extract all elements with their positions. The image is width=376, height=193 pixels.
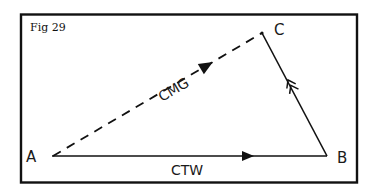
cmg-label: CMG [155, 74, 191, 104]
point-b-label: B [337, 149, 347, 167]
figure-frame [21, 15, 357, 183]
point-c-marker [260, 31, 263, 34]
cb-line [262, 33, 327, 156]
point-c-label: C [274, 21, 284, 39]
point-a-label: A [26, 148, 37, 166]
ctw-label: CTW [171, 162, 203, 178]
figure-title: Fig 29 [30, 21, 66, 34]
cb-double-arrow-icon [284, 78, 299, 94]
cmg-arrowhead-icon [198, 57, 216, 74]
ctw-arrowhead-icon [242, 151, 254, 161]
vector-triangle-diagram: Fig 29 A B C CTW CMG [0, 0, 376, 193]
